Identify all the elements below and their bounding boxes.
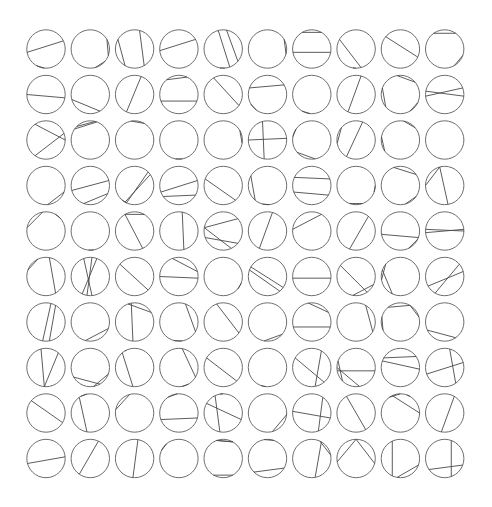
circle-cell-r9-c4 [204, 439, 242, 477]
circle-cell-r5-c2 [115, 257, 153, 295]
circle-outline [381, 75, 419, 113]
circle-outline [381, 166, 419, 204]
circle-cell-r5-c0 [27, 257, 65, 295]
chord-line [315, 442, 321, 478]
chord-line [293, 214, 322, 229]
circle-cell-r2-c3 [160, 121, 198, 159]
circle-cell-r1-c3 [160, 75, 198, 113]
circle-outline [293, 439, 331, 477]
circle-cell-r3-c3 [160, 166, 198, 204]
chord-line [435, 264, 459, 293]
circle-cell-r1-c1 [71, 75, 109, 113]
chord-line [205, 238, 238, 244]
circle-cell-r0-c3 [160, 30, 198, 68]
circle-outline [204, 394, 242, 432]
circle-cell-r4-c5 [248, 212, 286, 250]
circle-outline [248, 212, 286, 250]
circle-cell-r5-c6 [293, 257, 331, 295]
circle-cell-r3-c5 [248, 166, 286, 204]
chord-line [214, 78, 239, 106]
circle-outline [293, 212, 331, 250]
chord-line [347, 122, 363, 157]
chord-line [207, 403, 242, 419]
chord-line [356, 439, 375, 463]
circle-outline [293, 75, 331, 113]
chord-line [217, 304, 239, 333]
circle-outline [71, 75, 109, 113]
circle-cell-r0-c7 [337, 30, 375, 68]
circle-cell-r7-c7 [337, 348, 375, 386]
chord-line [320, 441, 331, 455]
circle-grid [0, 0, 492, 507]
chord-line [35, 133, 64, 155]
circle-outline [160, 348, 198, 386]
circle-cell-r7-c0 [27, 348, 65, 386]
circle-cell-r0-c9 [426, 30, 464, 68]
chord-line [27, 457, 65, 464]
circle-outline [27, 257, 65, 295]
circle-outline [381, 439, 419, 477]
circle-outline [337, 303, 375, 341]
chord-line [161, 181, 198, 193]
circle-outline [381, 394, 419, 432]
chord-line [337, 439, 356, 462]
chord-line [161, 418, 198, 420]
chord-line [392, 396, 419, 413]
circle-cell-r8-c5 [248, 394, 286, 432]
circle-outline [115, 394, 153, 432]
chord-line [72, 99, 100, 111]
circle-cell-r0-c0 [27, 30, 65, 68]
circle-cell-r6-c4 [204, 303, 242, 341]
circle-cell-r5-c5 [248, 257, 286, 295]
circle-cell-r6-c1 [71, 303, 109, 341]
circle-cell-r0-c2 [115, 30, 153, 68]
chord-line [205, 179, 235, 200]
circle-outline [293, 348, 331, 386]
chord-line [381, 234, 418, 237]
circle-cell-r9-c2 [115, 439, 153, 477]
circle-outline [293, 166, 331, 204]
circle-cell-r9-c8 [381, 439, 419, 477]
circle-outline [204, 121, 242, 159]
chord-line [238, 283, 241, 289]
chord-line [261, 386, 266, 387]
circle-cell-r5-c3 [160, 257, 198, 295]
chord-line [82, 258, 97, 293]
circle-cell-r8-c6 [293, 394, 331, 432]
chord-line [272, 415, 286, 432]
circle-outline [426, 394, 464, 432]
circle-cell-r8-c2 [115, 394, 153, 432]
chord-line [382, 361, 419, 369]
chord-line [182, 212, 184, 249]
chord-line [410, 103, 418, 112]
circle-cell-r4-c2 [115, 212, 153, 250]
circle-outline [115, 303, 153, 341]
chord-line [318, 397, 322, 431]
chord-line [131, 303, 133, 341]
circle-cell-r9-c0 [27, 439, 65, 477]
circle-cell-r3-c0 [27, 166, 65, 204]
circle-outline [27, 394, 65, 432]
chord-line [427, 363, 464, 375]
circle-outline [293, 394, 331, 432]
circle-outline [160, 75, 198, 113]
circle-cell-r6-c0 [27, 303, 65, 341]
chord-line [410, 305, 419, 317]
circle-outline [27, 75, 65, 113]
circle-cell-r9-c1 [71, 439, 109, 477]
circle-outline [204, 439, 242, 477]
circle-cell-r7-c3 [160, 348, 198, 386]
circle-outline [426, 348, 464, 386]
chord-line [44, 353, 58, 387]
circle-cell-r1-c0 [27, 75, 65, 113]
circle-cell-r3-c6 [293, 166, 331, 204]
circle-outline [115, 212, 153, 250]
circle-cell-r5-c7 [337, 257, 375, 295]
circle-outline [71, 394, 109, 432]
chord-line [79, 441, 98, 474]
chord-line [407, 395, 410, 396]
chord-line [366, 305, 373, 331]
circle-outline [381, 303, 419, 341]
circle-outline [115, 439, 153, 477]
chord-line [160, 39, 196, 50]
